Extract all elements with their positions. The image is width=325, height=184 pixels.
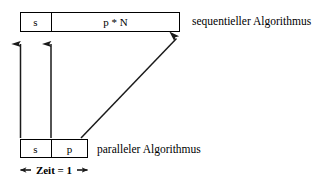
parallel-serial-label: s [20, 141, 51, 157]
sequential-parallel-label: p * N [51, 14, 180, 31]
parallel-algorithm-label: paralleler Algorithmus [97, 141, 201, 158]
diagram-canvas: s p * N s p sequentieller Algorithmus pa… [0, 0, 325, 184]
parallel-expansion-arrow [81, 39, 177, 139]
sequential-serial-label: s [20, 14, 51, 31]
parallel-parallel-label: p [51, 141, 88, 157]
time-measure-label: Zeit = 1 [31, 163, 77, 177]
sequential-algorithm-label: sequentieller Algorithmus [192, 13, 311, 30]
